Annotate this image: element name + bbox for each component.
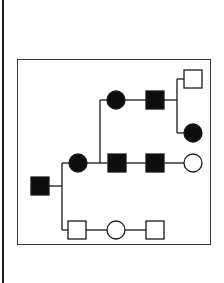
unaffected-male-square (184, 70, 202, 88)
affected-female-circle (107, 91, 125, 109)
affected-male-square (146, 91, 164, 109)
unaffected-female-circle (184, 154, 202, 172)
affected-male-square (146, 154, 164, 172)
unaffected-male-square (146, 221, 164, 239)
unaffected-female-circle (107, 221, 125, 239)
affected-male-square (31, 177, 49, 195)
affected-male-square (108, 154, 126, 172)
affected-female-circle (184, 124, 202, 142)
pedigree-chart (0, 0, 224, 283)
unaffected-male-square (68, 221, 86, 239)
affected-female-circle (69, 154, 87, 172)
